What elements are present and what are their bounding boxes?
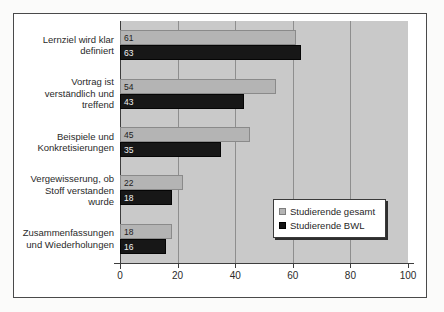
bar-total: 61 [120,30,296,45]
bar-value-label: 18 [124,192,133,204]
category-label: Vergewisserung, obStoff verstandenwurde [14,173,114,208]
bar-value-label: 63 [124,47,133,59]
category-label: Zusammenfassungenund Wiederholungen [14,227,114,250]
category-label-line: Stoff verstanden [14,185,114,197]
x-tick-label-40: 40 [215,270,255,281]
category-label-line: Zusammenfassungen [14,227,114,239]
x-tick-label-20: 20 [158,270,198,281]
legend-label-bwl: Studierende BWL [290,220,364,231]
bar-value-label: 54 [124,81,133,93]
bar-bwl: 18 [120,190,172,205]
bar-group: 6163 [120,30,408,60]
x-tick-label-100: 100 [388,270,428,281]
page-background: Lernziel wird klardefiniert6163Vortrag i… [0,0,444,312]
category-label: Beispiele undKonkretisierungen [14,131,114,154]
legend-item-studierende-gesamt: Studierende gesamt [279,204,379,218]
bar-value-label: 43 [124,96,133,108]
legend-label-total: Studierende gesamt [290,206,375,217]
x-axis-line [114,263,414,264]
legend-item-studierende-bwl: Studierende BWL [279,218,379,232]
category-label-line: und Wiederholungen [14,239,114,251]
bar-bwl: 43 [120,94,244,109]
tickmark-100 [408,263,409,268]
category-label-line: verständlich und [14,88,114,100]
legend-swatch-icon-bwl [279,222,286,229]
category-label-line: wurde [14,196,114,208]
bar-group: 5443 [120,79,408,109]
tickmark-0 [120,263,121,268]
bar-total: 54 [120,79,276,94]
x-tick-label-80: 80 [330,270,370,281]
bar-chart: Lernziel wird klardefiniert6163Vortrag i… [14,14,428,299]
bar-value-label: 22 [124,177,133,189]
bar-bwl: 63 [120,45,301,60]
category-label-line: Konkretisierungen [14,142,114,154]
category-label-line: Vergewisserung, ob [14,173,114,185]
x-tick-label-0: 0 [100,270,140,281]
tickmark-40 [235,263,236,268]
bar-bwl: 16 [120,239,166,254]
bar-total: 18 [120,224,172,239]
category-label-line: Beispiele und [14,131,114,143]
tickmark-60 [293,263,294,268]
bar-value-label: 18 [124,226,133,238]
bar-value-label: 45 [124,129,133,141]
category-label: Lernziel wird klardefiniert [14,34,114,57]
bar-bwl: 35 [120,142,221,157]
bar-value-label: 61 [124,32,133,44]
category-label: Vortrag istverständlich undtreffend [14,76,114,111]
bar-value-label: 16 [124,241,133,253]
category-label-line: Lernziel wird klar [14,34,114,46]
bar-total: 22 [120,175,183,190]
category-label-line: definiert [14,45,114,57]
category-label-line: treffend [14,99,114,111]
chart-legend: Studierende gesamt Studierende BWL [273,199,386,238]
bar-group: 4535 [120,127,408,157]
tickmark-20 [178,263,179,268]
bar-total: 45 [120,127,250,142]
x-tick-label-60: 60 [273,270,313,281]
category-label-line: Vortrag ist [14,76,114,88]
chart-frame: Lernziel wird klardefiniert6163Vortrag i… [13,13,427,298]
tickmark-80 [350,263,351,268]
legend-swatch-icon-total [279,208,286,215]
bar-value-label: 35 [124,144,133,156]
